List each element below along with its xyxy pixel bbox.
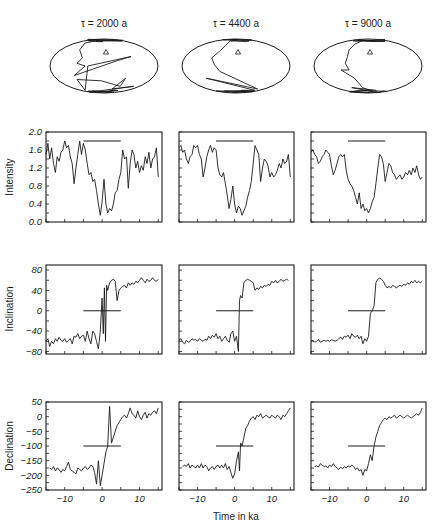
panel-inclination-3 <box>311 265 426 354</box>
xtick-label: 0 <box>232 493 238 504</box>
ytick-label: 0 <box>37 411 43 422</box>
data-line <box>46 278 158 349</box>
column-title-1: τ = 2000 a <box>81 18 127 29</box>
xtick-label: −10 <box>321 493 338 504</box>
vgp-map-2 <box>182 39 290 93</box>
xtick-label: −10 <box>57 493 74 504</box>
vgp-map-1 <box>50 39 158 93</box>
ylabel-intensity: Intensity <box>4 158 15 195</box>
ytick-label: 1.2 <box>29 162 43 173</box>
xtick-label: 10 <box>398 493 409 504</box>
ytick-label: 0.0 <box>29 216 43 227</box>
ytick-label: −150 <box>21 455 43 466</box>
column-title-2: τ = 4400 a <box>213 18 259 29</box>
time-series-panels: 0.00.40.81.21.62.0−80−4004080−250−200−15… <box>21 126 426 504</box>
plot-frame <box>311 132 426 222</box>
site-triangle-icon <box>103 50 108 55</box>
panel-declination-1: −250−200−150−100−50050−10010 <box>21 396 162 504</box>
vgp-path <box>341 40 376 91</box>
ytick-label: 40 <box>31 285 42 296</box>
ytick-label: −250 <box>21 484 43 495</box>
ytick-label: −50 <box>26 426 43 437</box>
xtick-label: 0 <box>364 493 370 504</box>
ylabel-inclination: Inclination <box>4 286 15 331</box>
ytick-label: 2.0 <box>28 126 43 137</box>
xtick-label: 10 <box>134 493 145 504</box>
site-triangle-icon <box>367 50 372 55</box>
vgp-path <box>74 40 133 91</box>
data-line <box>183 408 291 478</box>
mollweide-outline <box>50 39 158 93</box>
panel-intensity-3 <box>311 132 426 222</box>
ytick-label: −80 <box>26 346 43 357</box>
data-line <box>315 408 423 475</box>
xtick-label: −10 <box>189 493 206 504</box>
mollweide-outline <box>314 39 422 93</box>
ytick-label: 0.4 <box>29 198 42 209</box>
ytick-label: −200 <box>21 470 43 481</box>
site-triangle-icon <box>235 50 240 55</box>
panel-intensity-2 <box>179 132 294 222</box>
column-title-3: τ = 9000 a <box>345 18 391 29</box>
data-line <box>311 150 422 213</box>
vgp-map-3 <box>314 39 422 93</box>
xtick-label: 0 <box>99 493 105 504</box>
ylabel-declination: Declination <box>4 421 15 470</box>
ytick-label: 50 <box>31 396 42 407</box>
xtick-label: 10 <box>266 493 277 504</box>
plot-frame <box>179 265 294 354</box>
data-line <box>179 146 290 216</box>
panel-inclination-2 <box>179 265 294 354</box>
data-line <box>179 279 288 351</box>
panel-intensity-1: 0.00.40.81.21.62.0 <box>28 126 162 227</box>
vgp-path <box>206 40 257 90</box>
ytick-label: 80 <box>31 264 42 275</box>
vgp-map-row <box>50 39 422 93</box>
ytick-label: 0.8 <box>29 180 43 191</box>
panel-declination-3: −10010 <box>311 402 426 504</box>
data-line <box>46 141 158 215</box>
ytick-label: 1.6 <box>29 144 43 155</box>
panel-declination-2: −10010 <box>179 402 294 504</box>
ytick-label: 0 <box>37 305 43 316</box>
ytick-label: −100 <box>21 440 43 451</box>
paleomagnetic-reversal-figure: τ = 2000 a τ = 4400 a τ = 9000 a 0.00.40… <box>0 0 442 531</box>
xlabel-time: Time in ka <box>213 511 259 522</box>
ytick-label: −40 <box>26 325 43 336</box>
plot-frame <box>179 132 294 222</box>
panel-inclination-1: −80−4004080 <box>26 264 162 356</box>
